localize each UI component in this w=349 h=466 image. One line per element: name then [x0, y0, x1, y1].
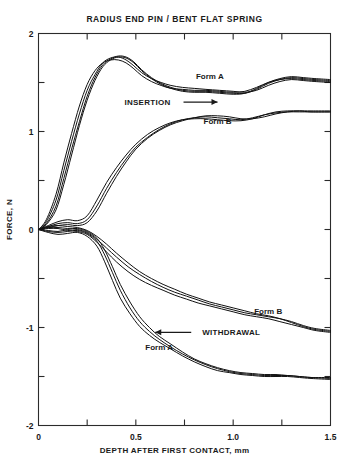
series-label: Form A — [145, 343, 173, 352]
data-curve — [39, 57, 331, 230]
y-tick-label: 1 — [29, 127, 34, 137]
data-curve — [39, 56, 331, 230]
y-tick-label: 2 — [29, 29, 34, 39]
y-tick-label: -2 — [26, 421, 34, 431]
plot-area: 00.51.01.5210-1-2 Form AINSERTIONForm BF… — [0, 0, 349, 466]
data-curve — [39, 111, 331, 230]
x-tick-label: 0.5 — [130, 432, 142, 442]
data-curve — [39, 228, 331, 332]
data-curve — [39, 60, 331, 230]
data-curve — [39, 230, 331, 380]
insertion-arrow-head — [212, 99, 218, 105]
series-label: Form B — [204, 117, 232, 126]
figure-container: RADIUS END PIN / BENT FLAT SPRING FORCE,… — [0, 0, 349, 466]
data-curve — [39, 57, 331, 230]
x-tick-label: 1.5 — [325, 432, 337, 442]
annotations-group: Form AINSERTIONForm BForm BWITHDRAWALFor… — [124, 72, 282, 352]
series-label: Form A — [196, 72, 224, 81]
x-tick-label: 1.0 — [227, 432, 239, 442]
data-curves-group — [39, 56, 331, 380]
series-label: Form B — [254, 307, 282, 316]
y-tick-label: -1 — [26, 323, 34, 333]
data-curve — [39, 112, 331, 230]
data-curve — [39, 111, 331, 230]
annotation-label: WITHDRAWAL — [202, 328, 260, 337]
x-tick-label: 0 — [36, 432, 41, 442]
data-curve — [39, 230, 331, 379]
data-curve — [39, 227, 331, 330]
data-curve — [39, 226, 331, 332]
y-tick-label: 0 — [29, 225, 34, 235]
annotation-label: INSERTION — [124, 98, 170, 107]
